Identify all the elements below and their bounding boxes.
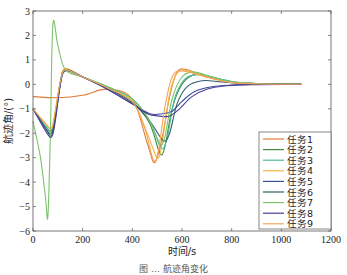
y-tick-label: −6 [19,226,30,237]
y-tick-label: −4 [19,177,30,188]
y-tick-label: −3 [19,152,30,163]
legend-label: 任务2 [287,144,313,155]
figure-caption: 图 … 航迹角变化 [0,262,347,275]
y-tick-label: −2 [19,128,30,139]
x-tick-label: 0 [31,234,36,245]
x-tick-label: 600 [175,234,190,245]
legend-label: 任务6 [287,187,313,198]
y-tick-label: 3 [25,6,30,17]
legend: 任务1任务2任务3任务4任务5任务6任务7任务8任务9 [259,132,331,229]
x-tick-label: 1000 [271,234,291,245]
y-tick-label: 0 [25,79,30,90]
x-tick-label: 200 [75,234,90,245]
y-tick-label: 1 [25,54,30,65]
legend-label: 任务7 [287,197,313,208]
x-tick-label: 800 [224,234,239,245]
y-axis-label: 航迹角/(°) [2,98,14,144]
x-axis-label: 时间/s [168,245,197,257]
x-tick-label: 400 [125,234,140,245]
y-tick-label: −5 [19,201,30,212]
legend-label: 任务8 [287,208,313,219]
legend-label: 任务4 [287,165,313,176]
x-tick-label: 1200 [321,234,341,245]
y-tick-label: −1 [19,103,30,114]
legend-label: 任务3 [287,155,313,166]
legend-label: 任务9 [287,218,313,229]
y-tick-label: 2 [25,30,30,41]
legend-label: 任务1 [287,134,313,145]
legend-label: 任务5 [287,176,313,187]
